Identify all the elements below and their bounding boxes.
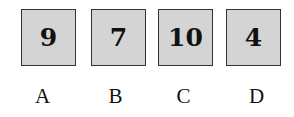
card-a: 9	[21, 9, 76, 66]
card-d-value: 4	[245, 23, 262, 52]
label-b: B	[89, 84, 142, 109]
card-d: 4	[226, 9, 281, 66]
card-c: 10	[158, 9, 213, 66]
card-c-value: 10	[168, 23, 203, 52]
label-c: C	[157, 84, 210, 109]
card-b: 7	[91, 9, 146, 66]
label-d: D	[230, 84, 283, 109]
label-a: A	[16, 84, 69, 109]
card-b-value: 7	[110, 23, 127, 52]
card-a-value: 9	[40, 23, 57, 52]
